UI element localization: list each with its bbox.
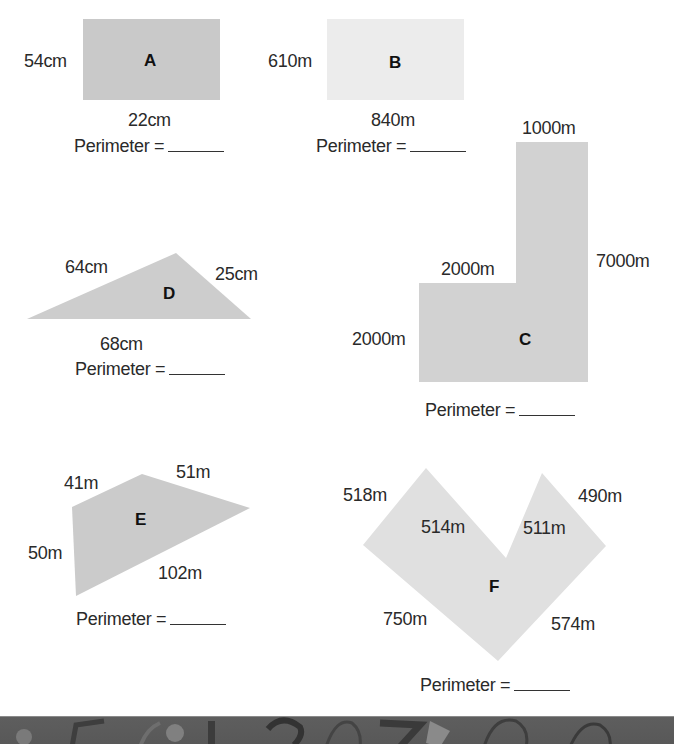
shape-a-side-label: 54cm [24, 52, 67, 70]
footer-number-decoration-icon [0, 717, 674, 744]
shape-b-perimeter: Perimeter = [316, 137, 466, 155]
shape-c-top-label: 1000m [522, 119, 576, 137]
shape-e-left-label: 50m [28, 544, 62, 562]
shape-d-left-label: 64cm [65, 258, 108, 276]
shape-d-bottom-label: 68cm [100, 335, 143, 353]
shape-f-perimeter: Perimeter = [420, 676, 570, 694]
perimeter-label: Perimeter = [74, 136, 164, 156]
perimeter-label: Perimeter = [75, 359, 165, 379]
shape-a-perimeter: Perimeter = [74, 137, 224, 155]
shape-b-bottom-label: 840m [371, 111, 415, 129]
shape-b-side-label: 610m [268, 52, 312, 70]
shape-c-inner-top-label: 2000m [441, 260, 495, 278]
shape-e-letter: E [135, 511, 146, 528]
shape-c-answer-blank[interactable] [519, 414, 575, 416]
shape-f-bottom-right-label: 574m [551, 615, 595, 633]
shape-b-answer-blank[interactable] [410, 150, 466, 152]
shape-e-answer-blank[interactable] [170, 623, 226, 625]
shape-e-top-right-label: 51m [176, 463, 210, 481]
shape-d-letter: D [163, 285, 175, 302]
shape-f-bottom-left-label: 750m [383, 610, 427, 628]
shape-d-triangle [27, 253, 251, 319]
shape-d-answer-blank[interactable] [169, 373, 225, 375]
shape-a-bottom-label: 22cm [128, 111, 171, 129]
shape-e-perimeter: Perimeter = [76, 610, 226, 628]
shape-f-inner-left-label: 514m [421, 518, 465, 536]
shape-b-letter: B [389, 54, 401, 71]
shape-c-left-label: 2000m [352, 330, 406, 348]
shape-c-perimeter: Perimeter = [425, 401, 575, 419]
decorative-footer-banner [0, 716, 674, 744]
perimeter-label: Perimeter = [316, 136, 406, 156]
shape-c-right-label: 7000m [596, 252, 650, 270]
shape-a-letter: A [144, 52, 156, 69]
shape-e-top-left-label: 41m [64, 474, 98, 492]
shape-f-letter: F [489, 578, 499, 595]
shape-f-answer-blank[interactable] [514, 689, 570, 691]
perimeter-label: Perimeter = [425, 400, 515, 420]
shape-c-letter: C [519, 331, 531, 348]
shape-f-outer-left-label: 518m [343, 486, 387, 504]
shape-f-outer-right-label: 490m [578, 487, 622, 505]
shape-e-bottom-label: 102m [158, 564, 202, 582]
shape-f-inner-right-label: 511m [523, 519, 566, 537]
perimeter-label: Perimeter = [420, 675, 510, 695]
shape-d-right-label: 25cm [215, 265, 258, 283]
shape-a-answer-blank[interactable] [168, 150, 224, 152]
shape-d-perimeter: Perimeter = [75, 360, 225, 378]
perimeter-label: Perimeter = [76, 609, 166, 629]
